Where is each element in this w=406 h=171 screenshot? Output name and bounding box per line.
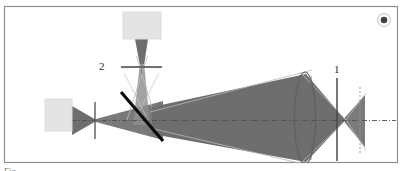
top-source-box	[123, 12, 161, 39]
optical-diagram-canvas: 2 1	[0, 0, 406, 171]
label-1: 1	[334, 63, 340, 75]
page-corner-mark	[381, 17, 388, 24]
optical-diagram-figure: 2 1 Fig.	[0, 0, 406, 171]
left-source-box	[45, 99, 72, 131]
figure-caption-cropped: Fig.	[4, 166, 124, 171]
label-2: 2	[99, 60, 105, 72]
